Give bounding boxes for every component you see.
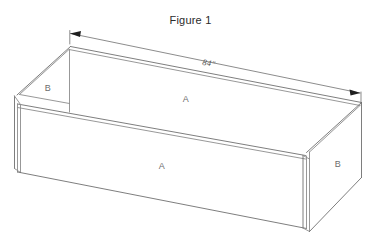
box-line-drawing: [0, 0, 381, 242]
panel-label-front-long: A: [159, 161, 166, 171]
edge-right-top-outer: [307, 103, 362, 153]
dimension-arrow-right-icon: [350, 90, 361, 96]
panel-label-back-long: A: [183, 94, 190, 104]
panel-label-left-end: B: [45, 83, 52, 93]
panel-label-right-end: B: [335, 159, 342, 169]
edge-front-bottom: [18, 172, 307, 229]
edge-back-bottom-outer: [18, 108, 306, 160]
edge-left-corner-cap-top: [15, 96, 21, 105]
dimension-label: 84": [202, 57, 217, 69]
dimension-arrow-left-icon: [70, 31, 81, 37]
edge-left-bottom-inner: [20, 95, 70, 104]
edge-right-bottom: [310, 178, 362, 232]
figure-canvas: Figure 1: [0, 0, 381, 242]
edge-right-top-inner: [310, 106, 361, 153]
edge-back-bottom-inner: [18, 104, 306, 156]
edge-back-top-inner: [69, 50, 360, 106]
edge-back-top-outer: [71, 47, 362, 103]
